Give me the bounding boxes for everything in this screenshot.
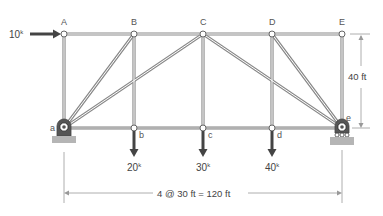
label-A: A: [61, 17, 67, 27]
joint-c: [200, 125, 206, 131]
joint-A: [61, 31, 67, 37]
label-c: c: [208, 130, 213, 140]
joint-d: [269, 125, 275, 131]
joint-E: [339, 31, 345, 37]
label-d: d: [277, 130, 282, 140]
truss-diagram: A B C D E a b c d e 10k 20k: [0, 0, 383, 216]
label-B: B: [131, 17, 137, 27]
load-40k: 40k: [265, 162, 280, 173]
load-20k: 20k: [127, 162, 142, 173]
label-b: b: [139, 130, 144, 140]
height-label: 40 ft: [348, 71, 367, 82]
truss-members: [64, 34, 342, 128]
label-a: a: [50, 123, 55, 133]
joint-b: [131, 125, 137, 131]
load-10k: 10k: [9, 29, 24, 40]
joint-C: [200, 31, 206, 37]
vertical-load-arrows: 20k 30k 40k: [127, 131, 280, 173]
joint-D: [269, 31, 275, 37]
span-label: 4 @ 30 ft = 120 ft: [157, 188, 231, 199]
load-30k: 30k: [196, 162, 211, 173]
label-D: D: [269, 17, 276, 27]
label-C: C: [200, 17, 207, 27]
horizontal-load-arrow: 10k: [9, 29, 61, 40]
label-E: E: [339, 17, 345, 27]
joint-B: [131, 31, 137, 37]
